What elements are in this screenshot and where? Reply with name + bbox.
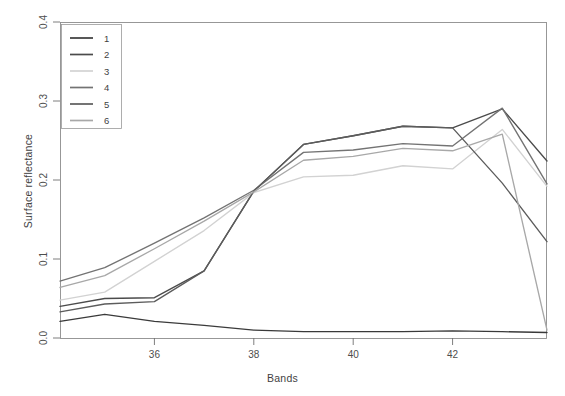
x-axis-ticks: 36384042 <box>149 338 459 360</box>
legend-label-2[interactable]: 2 <box>104 49 109 60</box>
series-line-4 <box>60 108 547 281</box>
y-tick-label: 0.3 <box>38 94 49 108</box>
x-axis-label: Bands <box>0 372 565 384</box>
series-line-6 <box>60 134 547 330</box>
plot-frame <box>61 23 547 339</box>
legend-label-3[interactable]: 3 <box>104 66 109 77</box>
series-line-5 <box>60 126 547 312</box>
legend[interactable]: 123456 <box>62 25 122 129</box>
y-tick-label: 0.4 <box>38 15 49 29</box>
legend-box <box>62 25 122 129</box>
line-chart-canvas: 0.00.10.20.30.4 36384042 123456 <box>0 0 565 396</box>
series-line-1 <box>60 314 547 332</box>
legend-label-4[interactable]: 4 <box>104 82 109 93</box>
x-tick-label: 40 <box>348 349 360 360</box>
legend-label-5[interactable]: 5 <box>104 99 109 110</box>
x-tick-label: 36 <box>149 349 161 360</box>
legend-label-6[interactable]: 6 <box>104 115 109 126</box>
x-tick-label: 38 <box>248 349 260 360</box>
y-axis-label: Surface reflectance <box>22 101 34 261</box>
chart-figure: 0.00.10.20.30.4 36384042 123456 Bands Su… <box>0 0 565 396</box>
y-tick-label: 0.0 <box>38 331 49 345</box>
series-line-2 <box>60 109 547 307</box>
legend-label-1[interactable]: 1 <box>104 33 109 44</box>
y-axis-ticks: 0.00.10.20.30.4 <box>38 15 60 345</box>
series-line-3 <box>60 129 547 300</box>
y-tick-label: 0.2 <box>38 173 49 187</box>
y-tick-label: 0.1 <box>38 252 49 266</box>
x-tick-label: 42 <box>447 349 459 360</box>
series-lines <box>60 108 547 332</box>
